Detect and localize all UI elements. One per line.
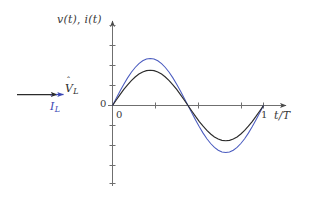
- figure-root: v(t), i(t) t/T 0 0 1 ˆV L ˆI L: [0, 0, 312, 197]
- x-axis-label: t/T: [274, 110, 290, 121]
- voltage-subscript: L: [73, 87, 79, 96]
- x-axis-one-tick-label: 1: [261, 110, 267, 120]
- x-axis-zero-tick-label: 0: [116, 110, 122, 120]
- phasor-current-symbol: ˆI: [50, 101, 54, 112]
- y-axis-zero-tick-label: 0: [100, 99, 106, 109]
- current-hat-accent: ˆ: [49, 95, 54, 104]
- y-axis-label: v(t), i(t): [57, 14, 102, 25]
- phasor-current-label: ˆI L: [50, 101, 60, 114]
- y-axis-label-v: v(t): [57, 13, 77, 26]
- figure-canvas: [0, 0, 312, 197]
- voltage-hat-accent: ˆ: [66, 77, 71, 86]
- y-axis-label-i: i(t): [84, 13, 101, 26]
- plot-axes: [108, 21, 286, 186]
- current-subscript: L: [54, 105, 60, 114]
- phasor-voltage-label: ˆV L: [65, 83, 79, 96]
- phasor-voltage-symbol: ˆV: [65, 83, 73, 94]
